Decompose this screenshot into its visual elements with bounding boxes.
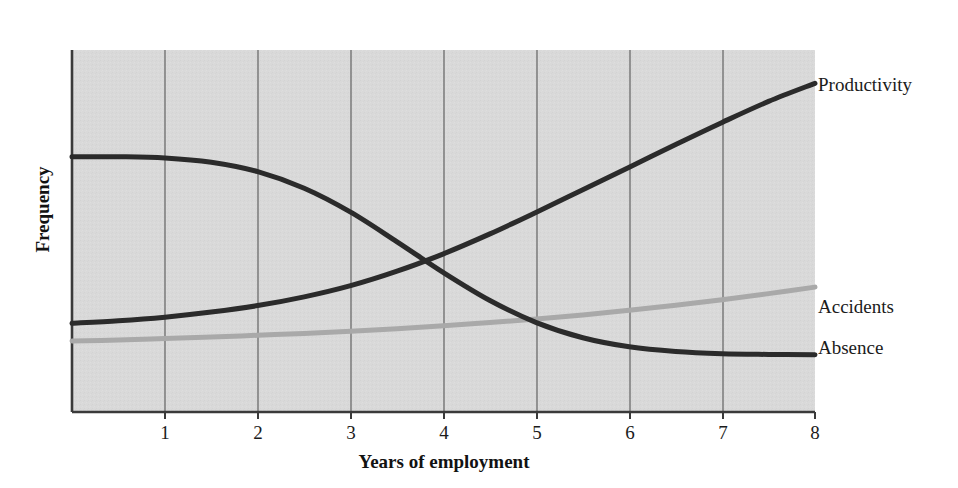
- x-tick-label-4: 4: [424, 423, 464, 442]
- chart-canvas: [0, 0, 958, 488]
- x-tick-label-6: 6: [610, 423, 650, 442]
- x-tick-label-2: 2: [238, 423, 278, 442]
- y-axis-title: Frequency: [33, 140, 52, 280]
- x-tick-label-7: 7: [703, 423, 743, 442]
- x-tick-label-1: 1: [145, 423, 185, 442]
- series-label-absence: Absence: [818, 338, 883, 357]
- x-tick-label-3: 3: [331, 423, 371, 442]
- x-axis-title: Years of employment: [0, 452, 888, 471]
- chart-figure: 1 2 3 4 5 6 7 8 Years of employment Freq…: [0, 0, 958, 488]
- series-label-accidents: Accidents: [818, 297, 894, 316]
- series-label-productivity: Productivity: [818, 75, 912, 94]
- x-tick-label-8: 8: [795, 423, 835, 442]
- x-tick-label-5: 5: [517, 423, 557, 442]
